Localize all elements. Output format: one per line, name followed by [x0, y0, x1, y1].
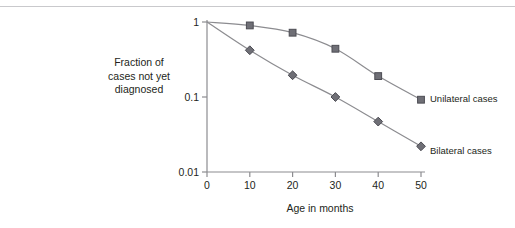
- data-point-marker-square: [375, 73, 382, 80]
- data-point-marker-diamond: [331, 93, 340, 102]
- data-point-marker-diamond: [288, 71, 297, 80]
- data-point-marker-square: [246, 22, 253, 29]
- data-point-marker-diamond: [245, 46, 254, 55]
- series-line: [207, 22, 421, 146]
- y-tick-label: 1: [193, 16, 199, 28]
- y-tick-label: 0.1: [184, 91, 199, 103]
- data-point-marker-square: [289, 29, 296, 36]
- y-tick-label: 0.01: [179, 166, 200, 178]
- x-tick-label: 50: [415, 179, 427, 191]
- x-axis-title: Age in months: [245, 202, 395, 214]
- data-point-marker-diamond: [374, 117, 383, 126]
- plot-area: 10.10.0101020304050: [0, 0, 515, 228]
- chart-figure: 10.10.0101020304050 Fraction of cases no…: [0, 0, 515, 228]
- x-tick-label: 20: [287, 179, 299, 191]
- y-axis-title: Fraction of cases not yet diagnosed: [96, 56, 182, 97]
- y-axis-title-line-2: cases not yet: [96, 70, 182, 84]
- series-label-unilateral: Unilateral cases: [430, 93, 498, 104]
- y-axis-title-line-1: Fraction of: [96, 56, 182, 70]
- data-point-marker-square: [418, 96, 425, 103]
- y-axis-title-line-3: diagnosed: [96, 83, 182, 97]
- series-label-bilateral: Bilateral cases: [430, 145, 492, 156]
- x-tick-label: 0: [204, 179, 210, 191]
- data-point-marker-diamond: [417, 142, 426, 151]
- x-tick-label: 10: [244, 179, 256, 191]
- x-tick-label: 40: [372, 179, 384, 191]
- data-point-marker-square: [332, 45, 339, 52]
- series-line: [207, 22, 421, 100]
- x-tick-label: 30: [330, 179, 342, 191]
